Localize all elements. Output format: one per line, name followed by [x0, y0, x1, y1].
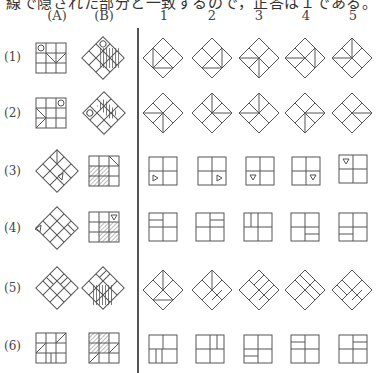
row2-option-4 — [285, 93, 325, 133]
row5-option-5 — [332, 270, 372, 310]
row3-figure-b — [89, 156, 119, 186]
row2-option-1 — [143, 93, 183, 133]
row2-option-2 — [192, 93, 232, 133]
row5-option-3 — [239, 270, 279, 310]
row4-figure-b — [89, 212, 119, 242]
row4-option-4 — [291, 213, 319, 241]
row6-option-5 — [339, 335, 367, 363]
row2-option-3 — [239, 93, 279, 133]
row3-option-5 — [339, 155, 367, 183]
row3-option-3 — [246, 157, 274, 185]
row5-option-2 — [192, 270, 232, 310]
row5-option-4 — [285, 270, 325, 310]
row6-option-3 — [244, 335, 272, 363]
row1-option-2 — [192, 38, 232, 78]
row4-option-2 — [196, 213, 224, 241]
row2-figure-a — [36, 98, 66, 128]
row6-figure-a — [36, 333, 66, 363]
row1-option-1 — [143, 38, 183, 78]
row6-option-4 — [291, 335, 319, 363]
figures-canvas — [0, 0, 381, 373]
row1-figure-a — [36, 43, 66, 73]
row4-option-1 — [149, 213, 177, 241]
row5-figure-a — [36, 267, 78, 309]
row3-option-2 — [198, 157, 226, 185]
row6-option-1 — [149, 335, 177, 363]
row4-option-3 — [244, 213, 272, 241]
row1-option-3 — [239, 38, 279, 78]
row1-option-4 — [285, 38, 325, 78]
row1-option-5 — [332, 38, 372, 78]
row2-option-5 — [332, 93, 372, 133]
row6-option-2 — [196, 335, 224, 363]
row3-option-4 — [292, 157, 320, 185]
row4-figure-a — [36, 207, 78, 249]
row4-option-5 — [339, 213, 367, 241]
row5-figure-b — [79, 267, 127, 315]
row3-figure-a — [36, 150, 78, 192]
row6-figure-b — [89, 333, 119, 363]
row3-option-1 — [149, 157, 177, 185]
row1-figure-b — [82, 34, 130, 82]
row5-option-1 — [143, 270, 183, 310]
